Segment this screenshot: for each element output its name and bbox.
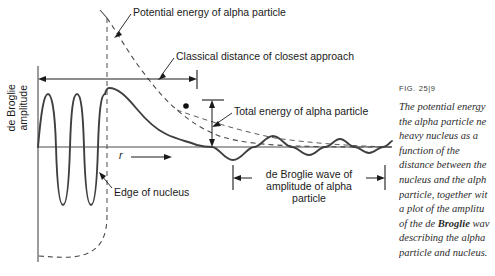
caption-line: heavy nucleus as a [399,129,495,144]
label-classical-distance: Classical distance of closest approach [176,50,354,62]
label-r-axis: r [119,149,123,161]
caption-line: particle and nucleus. [399,246,495,261]
label-total-energy: Total energy of alpha particle [234,105,368,117]
caption-line: of the de Broglie wav [399,217,495,232]
caption-line: nucleus and the alph [399,173,495,188]
label-potential-energy: Potential energy of alpha particle [133,6,286,18]
figure-caption: FIG. 25|9 The potential energythe alpha … [399,84,495,261]
caption-line: describing the alpha [399,231,495,246]
leader-line-potential-energy [114,14,131,38]
de-broglie-wave-inside-nucleus [38,94,105,205]
r-axis-arrow [131,154,172,160]
caption-line: a plot of the amplitu [399,202,495,217]
de-broglie-wave-barrier-decay [105,88,212,147]
caption-line: distance between the [399,158,495,173]
de-broglie-wave-outside-nucleus [212,136,392,160]
leader-line-classical-distance [158,58,174,80]
total-energy-arrow [202,100,224,147]
label-y-axis-de-broglie-amplitude: de Broglie amplitude [6,68,30,148]
caption-line: the alpha particle ne [399,115,495,130]
caption-line: particle, together wit [399,188,495,203]
classical-distance-arrow [38,70,197,89]
closest-approach-dot [183,103,189,109]
potential-curve-upper-tail [100,10,107,18]
caption-figure-number: FIG. 25|9 [399,84,495,93]
caption-line: function of the [399,144,495,159]
potential-energy-curve [107,18,392,147]
potential-well-wall [38,215,107,257]
leader-line-edge-of-nucleus [99,172,112,188]
label-edge-of-nucleus: Edge of nucleus [114,186,189,198]
caption-text: The potential energythe alpha particle n… [399,100,495,261]
label-de-broglie-wave: de Broglie wave of amplitude of alpha pa… [257,168,361,204]
caption-line: The potential energy [399,100,495,115]
